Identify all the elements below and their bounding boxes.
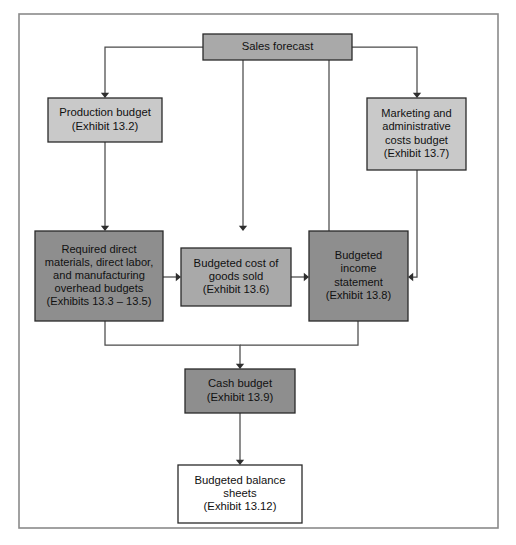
budgeted-balance-sheets-node-label-line-2: (Exhibit 13.12) xyxy=(204,500,277,512)
connector-sales-to-marketing xyxy=(352,47,421,98)
connector-marketing-to-income-statement-line xyxy=(413,170,417,277)
budgeted-cost-of-goods-sold-node-label-line-1: goods sold xyxy=(209,270,264,282)
budgeted-income-statement-node-label-line-2: statement xyxy=(334,276,383,288)
required-direct-materials-node-label-line-0: Required direct xyxy=(61,243,136,255)
required-direct-materials-node-label-line-2: and manufacturing xyxy=(53,269,145,281)
connector-production-to-required-materials-arrowhead xyxy=(101,226,109,231)
connector-required-materials-to-cogs xyxy=(163,273,181,281)
budgeted-income-statement-node-label-line-0: Budgeted xyxy=(335,249,383,261)
production-budget-node-label-line-1: (Exhibit 13.2) xyxy=(72,120,139,132)
budgeted-cost-of-goods-sold-node-label-line-0: Budgeted cost of xyxy=(194,257,280,269)
budgeted-income-statement-node-label-line-1: income xyxy=(341,262,377,274)
connector-marketing-to-income-statement-arrowhead xyxy=(408,273,413,281)
required-direct-materials-node[interactable]: Required directmaterials, direct labor,a… xyxy=(35,231,163,321)
budgeted-cost-of-goods-sold-node[interactable]: Budgeted cost ofgoods sold(Exhibit 13.6) xyxy=(181,248,291,306)
connector-production-to-required-materials xyxy=(101,142,109,231)
connector-sales-to-required-materials xyxy=(239,60,247,231)
connector-sales-to-cogs xyxy=(325,60,333,248)
marketing-admin-costs-budget-node-label-line-2: costs budget xyxy=(385,134,448,146)
connector-cogs-to-income-statement-arrowhead xyxy=(304,273,309,281)
flowchart-diagram: Sales forecastProduction budget(Exhibit … xyxy=(0,0,516,545)
connector-sales-to-marketing-line xyxy=(352,47,417,93)
required-direct-materials-node-label-line-4: (Exhibits 13.3 – 13.5) xyxy=(47,295,152,307)
connector-sales-to-marketing-arrowhead xyxy=(413,93,421,98)
connector-sales-to-production xyxy=(101,47,203,98)
cash-budget-node-label-line-1: (Exhibit 13.9) xyxy=(207,391,274,403)
budgeted-income-statement-node-label-line-3: (Exhibit 13.8) xyxy=(326,289,391,301)
budgeted-cost-of-goods-sold-node-label-line-2: (Exhibit 13.6) xyxy=(203,283,270,295)
connector-marketing-to-income-statement xyxy=(408,170,417,281)
node-layer: Sales forecastProduction budget(Exhibit … xyxy=(35,34,466,523)
budgeted-balance-sheets-node-label-line-1: sheets xyxy=(223,487,257,499)
connector-sales-to-required-materials-arrowhead xyxy=(239,226,247,231)
cash-budget-node[interactable]: Cash budget(Exhibit 13.9) xyxy=(185,369,295,413)
connector-required-materials-to-cash xyxy=(105,321,244,369)
connector-cogs-to-income-statement xyxy=(291,273,309,281)
required-direct-materials-node-label-line-1: materials, direct labor, xyxy=(45,256,154,268)
marketing-admin-costs-budget-node-label-line-1: administrative xyxy=(382,120,450,132)
production-budget-node-label-line-0: Production budget xyxy=(59,106,152,118)
required-direct-materials-node-label-line-3: overhead budgets xyxy=(55,282,144,294)
marketing-admin-costs-budget-node-label-line-0: Marketing and xyxy=(381,107,451,119)
budgeted-income-statement-node[interactable]: Budgetedincomestatement(Exhibit 13.8) xyxy=(309,231,408,321)
connector-required-materials-to-cash-line xyxy=(105,321,240,364)
connector-income-statement-to-cash-line xyxy=(240,321,358,345)
sales-forecast-node[interactable]: Sales forecast xyxy=(203,34,352,60)
production-budget-node[interactable]: Production budget(Exhibit 13.2) xyxy=(48,98,162,142)
cash-budget-node-label-line-0: Cash budget xyxy=(208,377,273,389)
connector-cash-to-balance-sheets-arrowhead xyxy=(236,460,244,465)
connector-income-statement-to-cash xyxy=(240,321,358,345)
sales-forecast-node-label-line-0: Sales forecast xyxy=(242,40,314,52)
connector-required-materials-to-cogs-arrowhead xyxy=(176,273,181,281)
budgeted-balance-sheets-node[interactable]: Budgeted balancesheets(Exhibit 13.12) xyxy=(178,465,302,523)
connector-sales-to-production-line xyxy=(105,47,203,93)
connector-required-materials-to-cash-arrowhead xyxy=(236,364,244,369)
marketing-admin-costs-budget-node[interactable]: Marketing andadministrativecosts budget(… xyxy=(367,98,466,170)
connector-sales-to-production-arrowhead xyxy=(101,93,109,98)
budgeted-balance-sheets-node-label-line-0: Budgeted balance xyxy=(194,474,285,486)
marketing-admin-costs-budget-node-label-line-3: (Exhibit 13.7) xyxy=(384,147,449,159)
connector-cash-to-balance-sheets xyxy=(236,413,244,465)
flowchart-canvas: Sales forecastProduction budget(Exhibit … xyxy=(0,0,516,545)
